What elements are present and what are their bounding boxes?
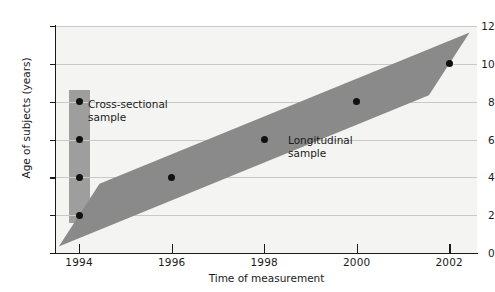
gridline	[56, 26, 477, 27]
x-axis-line	[55, 253, 478, 254]
x-axis-tick-label: 2002	[419, 256, 479, 268]
plot-area: Cross-sectional sample Longitudinal samp…	[56, 26, 477, 253]
data-point	[76, 98, 83, 105]
y-axis-tick-label: 4	[451, 171, 495, 183]
data-point	[76, 136, 83, 143]
x-axis-tick-label: 1998	[234, 256, 294, 268]
y-axis-tick-label: 10	[451, 58, 495, 70]
data-point	[353, 98, 360, 105]
x-axis-tick	[79, 244, 80, 253]
x-axis-tick	[172, 244, 173, 253]
y-axis-tick	[50, 140, 56, 141]
y-axis-tick	[50, 26, 56, 27]
data-point	[76, 174, 83, 181]
y-axis-tick	[50, 215, 56, 216]
x-axis-tick-label: 2000	[327, 256, 387, 268]
gridline	[56, 215, 477, 216]
x-axis-tick-label: 1996	[142, 256, 202, 268]
x-axis-title: Time of measurement	[56, 272, 477, 284]
annotation-longitudinal: Longitudinal sample	[288, 134, 353, 160]
x-axis-tick-label: 1994	[49, 256, 109, 268]
x-axis-tick	[357, 244, 358, 253]
y-axis-tick	[50, 64, 56, 65]
y-axis-tick-label: 2	[451, 209, 495, 221]
y-axis-title: Age of subjects (years)	[20, 38, 32, 198]
y-axis-tick	[50, 102, 56, 103]
data-point	[168, 174, 175, 181]
y-axis-tick-label: 6	[451, 134, 495, 146]
cross-sectional-band	[69, 90, 90, 222]
chart-figure: Cross-sectional sample Longitudinal samp…	[0, 0, 495, 292]
y-axis-tick-label: 8	[451, 96, 495, 108]
y-axis-tick	[50, 177, 56, 178]
x-axis-tick	[449, 244, 450, 253]
gridline	[56, 64, 477, 65]
annotation-cross-sectional: Cross-sectional sample	[88, 98, 168, 124]
y-axis-tick	[50, 253, 56, 254]
gridline	[56, 177, 477, 178]
data-point	[261, 136, 268, 143]
data-point	[76, 212, 83, 219]
x-axis-tick	[264, 244, 265, 253]
y-axis-tick-label: 12	[451, 20, 495, 32]
